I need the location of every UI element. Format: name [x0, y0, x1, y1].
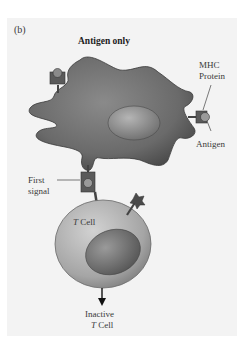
apc-nucleus: [108, 106, 160, 140]
right-mhc-receptor-icon: [188, 111, 210, 123]
mhc-protein-label-line2: Protein: [199, 71, 225, 81]
inactive-label-line2: T Cell: [91, 320, 113, 330]
first-signal-label-line2: signal: [28, 186, 50, 196]
mhc-protein-leader-line: [203, 85, 211, 110]
mhc-protein-label-line1: MHC: [199, 60, 220, 70]
inactive-label-line1: Inactive: [85, 309, 114, 319]
figure-title: Antigen only: [78, 36, 130, 46]
t-cell-label-rest: Cell: [78, 217, 95, 227]
down-arrow-icon: [98, 288, 106, 306]
inactive-label-rest: Cell: [96, 320, 113, 330]
panel-label: (b): [14, 25, 26, 35]
antigen-label: Antigen: [196, 139, 225, 149]
first-signal-label-line1: First: [28, 175, 45, 185]
t-cell-label: T Cell: [73, 217, 95, 227]
first-signal-receptor-icon: [81, 165, 97, 205]
antigen-leader-line: [207, 121, 211, 131]
diagram-canvas: [0, 0, 247, 340]
